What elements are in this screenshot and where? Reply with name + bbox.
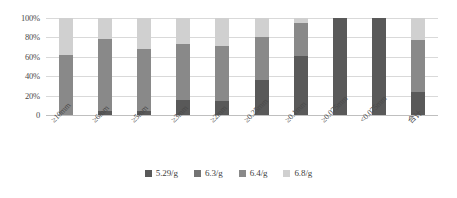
x-axis: ≥10mm≥6mm≥5mm≥3mm≥2mm≥0.25mm≥0.1mm≥0.075…	[46, 116, 438, 162]
stacked-bar[interactable]	[176, 18, 190, 115]
bar-slot	[124, 18, 163, 115]
bar-segment[interactable]	[176, 44, 190, 100]
stacked-bar[interactable]	[411, 18, 425, 115]
bar-slot	[203, 18, 242, 115]
legend-label: 6.8/g	[294, 168, 312, 178]
y-axis-tick-label: 60%	[25, 52, 40, 62]
stacked-bar-chart: 020%40%60%80%100% ≥10mm≥6mm≥5mm≥3mm≥2mm≥…	[0, 0, 457, 198]
stacked-bar[interactable]	[137, 18, 151, 115]
bar-segment[interactable]	[411, 18, 425, 40]
y-axis-tick-label: 100%	[21, 13, 40, 23]
y-axis: 020%40%60%80%100%	[0, 18, 44, 115]
legend-swatch-icon	[145, 170, 152, 177]
legend-label: 6.3/g	[205, 168, 223, 178]
bar-segment[interactable]	[215, 18, 229, 46]
y-axis-tick-label: 40%	[25, 71, 40, 81]
legend-label: 6.4/g	[250, 168, 268, 178]
chart-legend: 5.29/g6.3/g6.4/g6.8/g	[0, 168, 457, 178]
legend-item[interactable]: 5.29/g	[145, 168, 178, 178]
bar-segment[interactable]	[176, 18, 190, 44]
legend-item[interactable]: 6.3/g	[194, 168, 223, 178]
bar-segment[interactable]	[294, 23, 308, 56]
legend-item[interactable]: 6.4/g	[239, 168, 268, 178]
y-axis-tick-label: 0	[36, 110, 40, 120]
stacked-bar[interactable]	[98, 18, 112, 115]
bar-segment[interactable]	[411, 40, 425, 91]
bar-slot	[164, 18, 203, 115]
y-axis-tick-label: 20%	[25, 91, 40, 101]
legend-swatch-icon	[283, 170, 290, 177]
stacked-bar[interactable]	[215, 18, 229, 115]
bar-segment[interactable]	[137, 49, 151, 111]
y-axis-tick-label: 80%	[25, 32, 40, 42]
bar-segment[interactable]	[98, 18, 112, 39]
legend-label: 5.29/g	[156, 168, 178, 178]
bar-segment[interactable]	[59, 18, 73, 55]
bar-segment[interactable]	[98, 39, 112, 111]
bar-segment[interactable]	[255, 18, 269, 37]
bar-segment[interactable]	[255, 37, 269, 80]
legend-item[interactable]: 6.8/g	[283, 168, 312, 178]
bar-slot	[85, 18, 124, 115]
bar-segment[interactable]	[215, 46, 229, 101]
bar-slot	[399, 18, 438, 115]
bar-segment[interactable]	[137, 18, 151, 49]
legend-swatch-icon	[194, 170, 201, 177]
legend-swatch-icon	[239, 170, 246, 177]
